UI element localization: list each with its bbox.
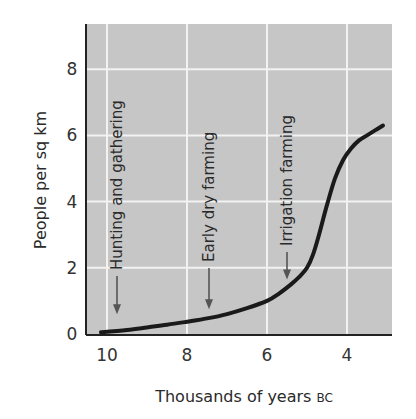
annotation-label: Irrigation farming	[278, 115, 296, 246]
x-axis-ticks: 10864	[96, 345, 352, 365]
annotation-label: Early dry farming	[200, 132, 218, 262]
x-tick-label: 6	[262, 345, 273, 365]
x-axis-label-main: Thousands of years	[154, 387, 311, 406]
annotation-label: Hunting and gathering	[108, 100, 126, 270]
y-tick-label: 8	[67, 59, 78, 79]
y-tick-label: 6	[67, 125, 78, 145]
y-axis-ticks: 02468	[67, 59, 78, 344]
x-tick-label: 10	[96, 345, 118, 365]
y-axis-label: People per sq km	[31, 111, 50, 249]
y-tick-label: 4	[67, 192, 78, 212]
x-tick-label: 4	[342, 345, 353, 365]
y-tick-label: 2	[67, 258, 78, 278]
x-axis-label: Thousands of yearsBC	[154, 387, 333, 406]
x-tick-label: 8	[182, 345, 193, 365]
y-tick-label: 0	[67, 324, 78, 344]
x-axis-label-suffix: BC	[316, 391, 332, 405]
population-density-chart: 02468 10864 Hunting and gatheringEarly d…	[0, 0, 416, 419]
